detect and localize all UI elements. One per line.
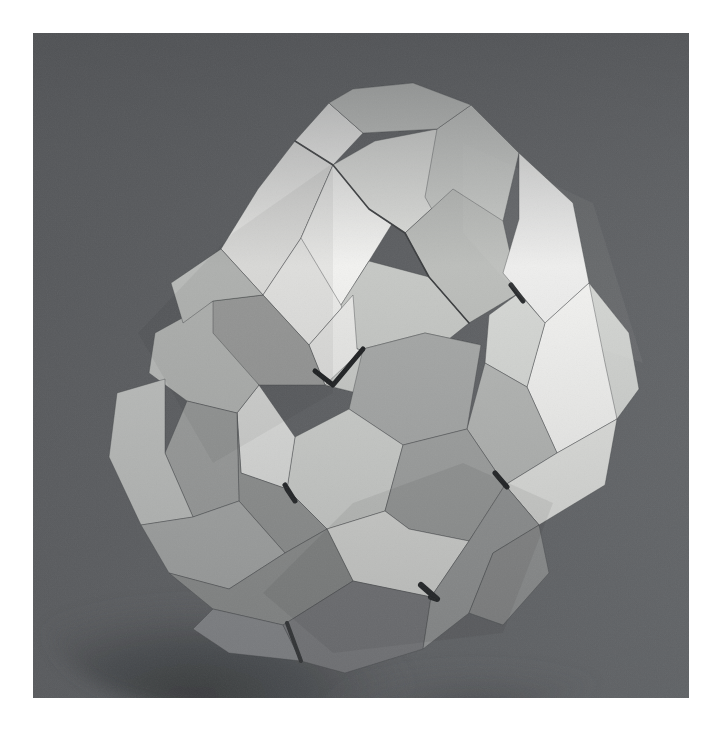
photograph	[33, 33, 689, 698]
photograph-canvas	[33, 33, 689, 698]
photo-page: Photograph of a white modular origami po…	[0, 0, 720, 738]
film-grain	[33, 33, 689, 698]
